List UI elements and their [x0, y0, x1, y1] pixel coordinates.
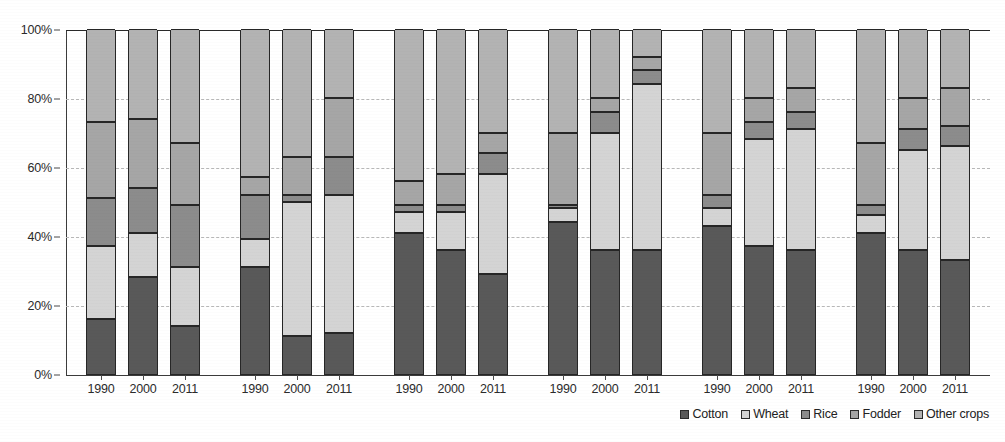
bar-segment[interactable] — [479, 153, 507, 174]
bar-segment[interactable] — [283, 336, 311, 374]
stacked-bar[interactable] — [478, 30, 508, 375]
bar-segment[interactable] — [395, 29, 423, 181]
bar-segment[interactable] — [437, 205, 465, 212]
bar-segment[interactable] — [395, 233, 423, 374]
legend-item[interactable]: Other crops — [914, 408, 989, 421]
bar-segment[interactable] — [283, 157, 311, 195]
bar-segment[interactable] — [857, 143, 885, 205]
bar-segment[interactable] — [479, 29, 507, 133]
bar-segment[interactable] — [87, 122, 115, 198]
bar-segment[interactable] — [325, 29, 353, 98]
bar-segment[interactable] — [549, 29, 577, 133]
bar-segment[interactable] — [87, 246, 115, 318]
bar-segment[interactable] — [87, 29, 115, 122]
bar-segment[interactable] — [437, 212, 465, 250]
bar-segment[interactable] — [283, 202, 311, 337]
bar-segment[interactable] — [325, 157, 353, 195]
bar-segment[interactable] — [745, 122, 773, 139]
bar-segment[interactable] — [857, 233, 885, 374]
bar-segment[interactable] — [549, 133, 577, 205]
bar-segment[interactable] — [87, 319, 115, 374]
bar-segment[interactable] — [633, 70, 661, 84]
bar-segment[interactable] — [941, 126, 969, 147]
bar-segment[interactable] — [283, 195, 311, 202]
bar-segment[interactable] — [745, 246, 773, 374]
stacked-bar[interactable] — [86, 30, 116, 375]
bar-segment[interactable] — [325, 195, 353, 333]
bar-segment[interactable] — [129, 233, 157, 278]
bar-segment[interactable] — [479, 133, 507, 154]
stacked-bar[interactable] — [898, 30, 928, 375]
bar-segment[interactable] — [171, 205, 199, 267]
bar-segment[interactable] — [171, 326, 199, 374]
bar-segment[interactable] — [787, 88, 815, 112]
bar-segment[interactable] — [479, 174, 507, 274]
bar-segment[interactable] — [745, 98, 773, 122]
bar-segment[interactable] — [241, 239, 269, 267]
bar-segment[interactable] — [549, 222, 577, 374]
bar-segment[interactable] — [899, 250, 927, 374]
bar-segment[interactable] — [941, 29, 969, 88]
bar-segment[interactable] — [787, 112, 815, 129]
stacked-bar[interactable] — [282, 30, 312, 375]
bar-segment[interactable] — [549, 205, 577, 208]
bar-segment[interactable] — [325, 333, 353, 374]
stacked-bar[interactable] — [128, 30, 158, 375]
bar-segment[interactable] — [745, 139, 773, 246]
bar-segment[interactable] — [703, 29, 731, 133]
bar-segment[interactable] — [899, 129, 927, 150]
stacked-bar[interactable] — [590, 30, 620, 375]
bar-segment[interactable] — [633, 84, 661, 250]
bar-segment[interactable] — [941, 146, 969, 260]
bar-segment[interactable] — [325, 98, 353, 157]
stacked-bar[interactable] — [436, 30, 466, 375]
bar-segment[interactable] — [703, 133, 731, 195]
bar-segment[interactable] — [857, 29, 885, 143]
bar-segment[interactable] — [129, 277, 157, 374]
bar-segment[interactable] — [129, 29, 157, 119]
bar-segment[interactable] — [171, 143, 199, 205]
bar-segment[interactable] — [787, 129, 815, 250]
bar-segment[interactable] — [633, 57, 661, 71]
bar-segment[interactable] — [941, 260, 969, 374]
bar-segment[interactable] — [787, 250, 815, 374]
stacked-bar[interactable] — [744, 30, 774, 375]
stacked-bar[interactable] — [170, 30, 200, 375]
bar-segment[interactable] — [857, 205, 885, 215]
bar-segment[interactable] — [899, 98, 927, 129]
bar-segment[interactable] — [395, 205, 423, 212]
bar-segment[interactable] — [857, 215, 885, 232]
bar-segment[interactable] — [241, 29, 269, 177]
stacked-bar[interactable] — [940, 30, 970, 375]
bar-segment[interactable] — [395, 212, 423, 233]
bar-segment[interactable] — [129, 119, 157, 188]
bar-segment[interactable] — [87, 198, 115, 246]
bar-segment[interactable] — [633, 29, 661, 57]
bar-segment[interactable] — [591, 250, 619, 374]
bar-segment[interactable] — [241, 195, 269, 240]
bar-segment[interactable] — [549, 208, 577, 222]
stacked-bar[interactable] — [702, 30, 732, 375]
legend-item[interactable]: Rice — [801, 408, 837, 421]
bar-segment[interactable] — [129, 188, 157, 233]
bar-segment[interactable] — [395, 181, 423, 205]
bar-segment[interactable] — [703, 226, 731, 374]
bar-segment[interactable] — [241, 177, 269, 194]
bar-segment[interactable] — [591, 133, 619, 250]
stacked-bar[interactable] — [240, 30, 270, 375]
legend-item[interactable]: Cotton — [680, 408, 728, 421]
stacked-bar[interactable] — [394, 30, 424, 375]
bar-segment[interactable] — [437, 250, 465, 374]
bar-segment[interactable] — [437, 174, 465, 205]
bar-segment[interactable] — [591, 112, 619, 133]
stacked-bar[interactable] — [786, 30, 816, 375]
legend-item[interactable]: Wheat — [741, 408, 788, 421]
bar-segment[interactable] — [941, 88, 969, 126]
bar-segment[interactable] — [633, 250, 661, 374]
bar-segment[interactable] — [591, 98, 619, 112]
legend-item[interactable]: Fodder — [850, 408, 900, 421]
bar-segment[interactable] — [171, 267, 199, 326]
stacked-bar[interactable] — [548, 30, 578, 375]
bar-segment[interactable] — [479, 274, 507, 374]
bar-segment[interactable] — [745, 29, 773, 98]
